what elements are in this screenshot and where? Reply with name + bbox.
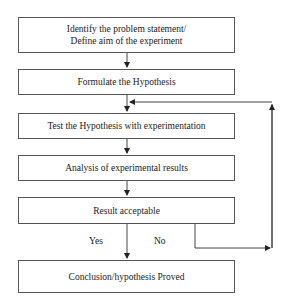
step-identify-line1: Identify the problem statement/ — [67, 23, 187, 35]
step-analysis: Analysis of experimental results — [18, 155, 235, 181]
step-formulate-hypothesis: Formulate the Hypothesis — [18, 69, 235, 95]
step-identify-problem: Identify the problem statement/ Define a… — [18, 17, 235, 53]
step-test-hypothesis: Test the Hypothesis with experimentation — [18, 113, 235, 139]
step-label: Formulate the Hypothesis — [77, 76, 175, 88]
step-label: Conclusion/hypothesis Proved — [69, 271, 185, 283]
step-conclusion: Conclusion/hypothesis Proved — [18, 260, 235, 293]
branch-no-label: No — [154, 236, 166, 246]
step-label: Test the Hypothesis with experimentation — [47, 120, 205, 132]
step-label: Analysis of experimental results — [65, 162, 188, 174]
branch-yes-label: Yes — [89, 236, 103, 246]
step-result-acceptable: Result acceptable — [18, 197, 235, 224]
step-label: Result acceptable — [93, 205, 160, 217]
step-identify-line2: Define aim of the experiment — [71, 35, 183, 47]
